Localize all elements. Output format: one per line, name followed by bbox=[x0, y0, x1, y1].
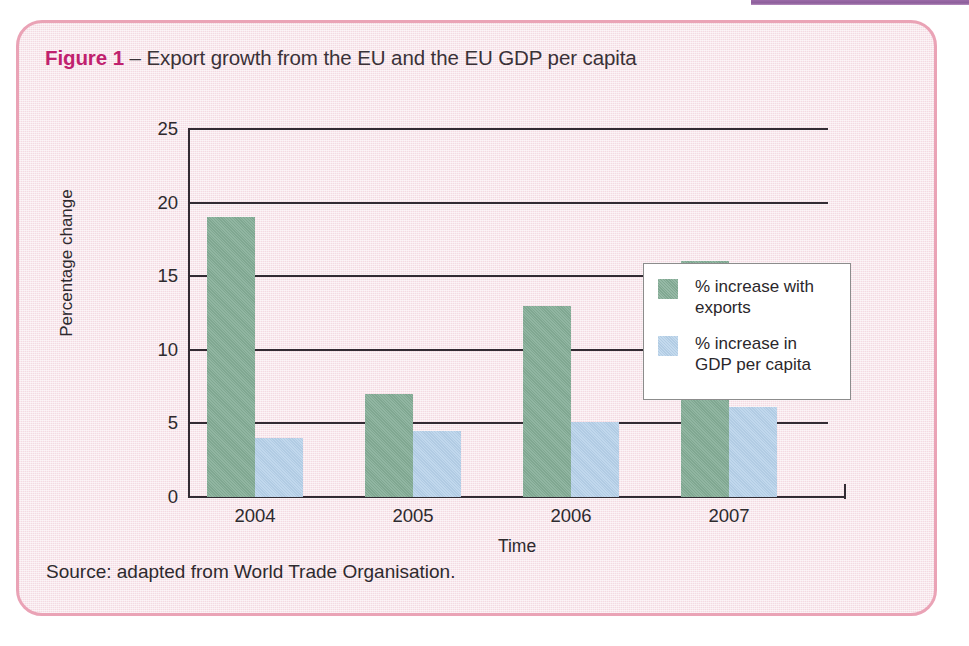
source-note: Source: adapted from World Trade Organis… bbox=[46, 561, 455, 583]
bar-2005-gdp bbox=[413, 431, 461, 497]
x-axis-tick-label: 2007 bbox=[708, 505, 749, 527]
y-axis-tick-label: 25 bbox=[157, 118, 178, 140]
bar-2006-gdp bbox=[571, 422, 619, 497]
gridline bbox=[188, 128, 828, 130]
y-axis-tick-label: 10 bbox=[157, 339, 178, 361]
x-axis-tick-label: 2004 bbox=[234, 505, 275, 527]
figure-panel: Figure 1 – Export growth from the EU and… bbox=[16, 20, 937, 616]
legend-swatch-exports bbox=[658, 279, 678, 299]
x-axis-tick-label: 2005 bbox=[392, 505, 433, 527]
legend-item[interactable]: % increase with exports bbox=[644, 277, 850, 318]
legend-label: % increase in GDP per capita bbox=[695, 334, 838, 375]
y-axis-tick-label: 5 bbox=[168, 412, 178, 434]
plot-area: 0510152025 2004200520062007 % increase w… bbox=[188, 129, 846, 497]
bar-2004-exports bbox=[207, 217, 255, 497]
legend-label: % increase with exports bbox=[695, 277, 838, 318]
x-axis-title: Time bbox=[188, 536, 846, 557]
bar-2005-exports bbox=[365, 394, 413, 497]
chart-legend: % increase with exports% increase in GDP… bbox=[643, 263, 851, 400]
y-axis-tick-label: 20 bbox=[157, 192, 178, 214]
y-axis-tick-label: 15 bbox=[157, 265, 178, 287]
bar-2006-exports bbox=[523, 306, 571, 497]
legend-swatch-gdp bbox=[658, 336, 678, 356]
gridline bbox=[188, 202, 828, 204]
x-axis-tick-label: 2006 bbox=[550, 505, 591, 527]
legend-item[interactable]: % increase in GDP per capita bbox=[644, 334, 850, 375]
bar-chart: Percentage change 0510152025 20042005200… bbox=[19, 23, 937, 616]
bar-2004-gdp bbox=[255, 438, 303, 497]
bar-2007-gdp bbox=[729, 407, 777, 497]
y-axis-tick-label: 0 bbox=[168, 486, 178, 508]
y-axis-line bbox=[188, 129, 190, 497]
y-axis-title: Percentage change bbox=[57, 163, 77, 363]
top-purple-rule bbox=[751, 0, 969, 5]
